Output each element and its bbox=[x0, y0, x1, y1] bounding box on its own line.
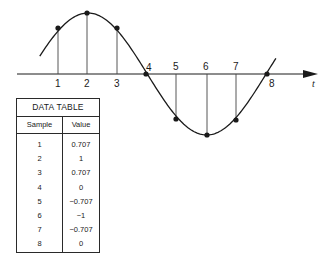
header-value: Value bbox=[63, 117, 99, 133]
time-axis-label: t bbox=[312, 78, 315, 89]
sample-label-4: 4 bbox=[146, 62, 152, 73]
value-column: 0.707 1 0.707 0 −0.707 −1 −0.707 0 bbox=[63, 134, 99, 253]
table-cell-value: 0 bbox=[63, 181, 99, 195]
sample-label-3: 3 bbox=[114, 78, 120, 89]
table-cell-value: −0.707 bbox=[63, 223, 99, 237]
sample-label-5: 5 bbox=[173, 61, 179, 72]
axis-arrow-icon bbox=[303, 70, 318, 78]
sample-dot-8 bbox=[264, 71, 269, 76]
table-cell-value: 0.707 bbox=[63, 138, 99, 152]
data-table: DATA TABLE Sample Value 1 2 3 4 5 6 7 8 … bbox=[16, 98, 100, 253]
table-cell-value: −1 bbox=[63, 209, 99, 223]
table-cell-sample: 8 bbox=[17, 237, 62, 251]
table-cell-sample: 7 bbox=[17, 223, 62, 237]
sample-column: 1 2 3 4 5 6 7 8 bbox=[17, 134, 63, 253]
sample-label-2: 2 bbox=[84, 78, 90, 89]
table-cell-sample: 4 bbox=[17, 181, 62, 195]
sample-dot-5 bbox=[173, 116, 178, 121]
sample-dot-6 bbox=[204, 132, 209, 137]
table-cell-value: 0.707 bbox=[63, 166, 99, 180]
sample-dot-2 bbox=[84, 10, 89, 15]
data-table-header: Sample Value bbox=[17, 117, 99, 134]
sample-dot-7 bbox=[233, 117, 238, 122]
sample-label-1: 1 bbox=[55, 78, 61, 89]
sample-label-7: 7 bbox=[233, 61, 239, 72]
table-cell-value: 0 bbox=[63, 237, 99, 251]
table-cell-sample: 3 bbox=[17, 166, 62, 180]
table-cell-sample: 6 bbox=[17, 209, 62, 223]
header-sample: Sample bbox=[17, 117, 63, 133]
table-cell-value: −0.707 bbox=[63, 195, 99, 209]
table-cell-sample: 2 bbox=[17, 152, 62, 166]
table-cell-value: 1 bbox=[63, 152, 99, 166]
table-cell-sample: 1 bbox=[17, 138, 62, 152]
sample-label-6: 6 bbox=[203, 61, 209, 72]
sample-dot-3 bbox=[114, 25, 119, 30]
sample-label-8: 8 bbox=[269, 78, 275, 89]
sample-dot-1 bbox=[55, 25, 60, 30]
table-cell-sample: 5 bbox=[17, 195, 62, 209]
data-table-body: 1 2 3 4 5 6 7 8 0.707 1 0.707 0 −0.707 −… bbox=[17, 134, 99, 253]
data-table-title: DATA TABLE bbox=[17, 99, 99, 117]
